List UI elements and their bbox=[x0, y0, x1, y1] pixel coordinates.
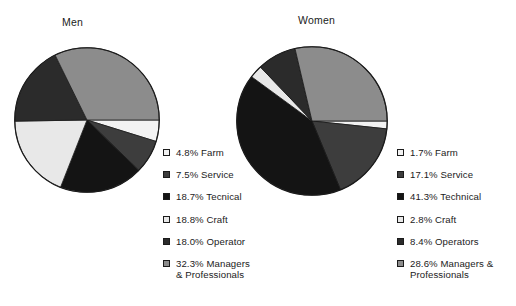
pie-women-svg bbox=[236, 46, 388, 196]
panel-women: Women 1.7% Farm 17.1% Service 41.3% Tech… bbox=[258, 0, 516, 306]
legend-item[interactable]: 18.0% Operator bbox=[163, 236, 258, 247]
legend-label: 41.3% Technical bbox=[410, 191, 481, 202]
legend-label: 1.7% Farm bbox=[410, 147, 458, 158]
legend-swatch-operator bbox=[397, 238, 404, 245]
chart-title-women: Women bbox=[298, 14, 335, 26]
legend-label: 18.7% Tecnical bbox=[176, 191, 242, 202]
legend-swatch-managers bbox=[163, 260, 170, 267]
chart-title-men: Men bbox=[62, 16, 83, 28]
legend-item[interactable]: 1.7% Farm bbox=[397, 147, 516, 158]
pie-men-svg bbox=[14, 47, 160, 193]
legend-swatch-service bbox=[397, 171, 404, 178]
legend-item[interactable]: 17.1% Service bbox=[397, 169, 516, 180]
legend-women: 1.7% Farm 17.1% Service 41.3% Technical … bbox=[397, 147, 516, 280]
legend-label: 8.4% Operators bbox=[410, 236, 479, 247]
legend-label: 4.8% Farm bbox=[176, 147, 224, 158]
legend-swatch-craft bbox=[163, 216, 170, 223]
pie-chart-men bbox=[14, 47, 160, 193]
legend-label: 18.8% Craft bbox=[176, 214, 228, 225]
legend-swatch-service bbox=[163, 171, 170, 178]
legend-swatch-technical bbox=[397, 193, 404, 200]
legend-swatch-technical bbox=[163, 193, 170, 200]
pie-chart-figure: Men 4.8% Farm 7.5% Service 18.7% Tecnica… bbox=[0, 0, 516, 306]
legend-label: 18.0% Operator bbox=[176, 236, 245, 247]
legend-swatch-farm bbox=[397, 149, 404, 156]
legend-label: 28.6% Managers & Professionals bbox=[410, 258, 516, 280]
legend-item[interactable]: 8.4% Operators bbox=[397, 236, 516, 247]
legend-label: 2.8% Craft bbox=[410, 214, 456, 225]
legend-swatch-farm bbox=[163, 149, 170, 156]
pie-men-slices bbox=[15, 48, 160, 193]
panel-men: Men 4.8% Farm 7.5% Service 18.7% Tecnica… bbox=[0, 0, 258, 306]
legend-item[interactable]: 32.3% Managers & Professionals bbox=[163, 258, 258, 280]
legend-label: 17.1% Service bbox=[410, 169, 473, 180]
legend-item[interactable]: 18.8% Craft bbox=[163, 214, 258, 225]
pie-women-slices bbox=[237, 47, 387, 196]
legend-item[interactable]: 28.6% Managers & Professionals bbox=[397, 258, 516, 280]
legend-label: 7.5% Service bbox=[176, 169, 234, 180]
legend-swatch-managers bbox=[397, 260, 404, 267]
legend-label: 32.3% Managers & Professionals bbox=[176, 258, 258, 280]
legend-item[interactable]: 41.3% Technical bbox=[397, 191, 516, 202]
legend-swatch-craft bbox=[397, 216, 404, 223]
legend-swatch-operator bbox=[163, 238, 170, 245]
legend-item[interactable]: 2.8% Craft bbox=[397, 214, 516, 225]
pie-chart-women bbox=[236, 46, 388, 196]
